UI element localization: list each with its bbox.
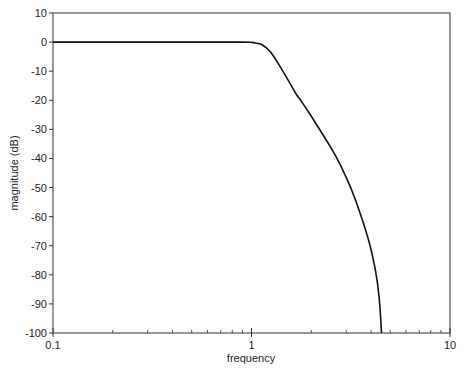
y-tick-label: -60: [31, 211, 47, 223]
chart: 100-10-20-30-40-50-60-70-80-90-100 0.111…: [0, 0, 466, 375]
y-tick-label: -100: [25, 327, 47, 339]
y-tick-label: -90: [31, 298, 47, 310]
x-tick-label: 0.1: [45, 339, 60, 351]
y-tick-label: -30: [31, 123, 47, 135]
y-tick-label: 10: [35, 7, 47, 19]
y-axis-ticks: 100-10-20-30-40-50-60-70-80-90-100: [25, 7, 53, 339]
x-tick-label: 1: [248, 339, 254, 351]
y-tick-label: -20: [31, 94, 47, 106]
y-tick-label: -80: [31, 269, 47, 281]
plot-frame: [53, 13, 450, 333]
y-tick-label: -40: [31, 152, 47, 164]
x-axis-label: frequency: [227, 352, 276, 364]
y-tick-label: -10: [31, 65, 47, 77]
x-axis-ticks: 0.1110: [45, 328, 456, 351]
x-tick-label: 10: [444, 339, 456, 351]
y-tick-label: 0: [41, 36, 47, 48]
magnitude-curve: [53, 42, 382, 333]
y-axis-label: magnitude (dB): [8, 135, 20, 210]
y-tick-label: -50: [31, 182, 47, 194]
y-tick-label: -70: [31, 240, 47, 252]
